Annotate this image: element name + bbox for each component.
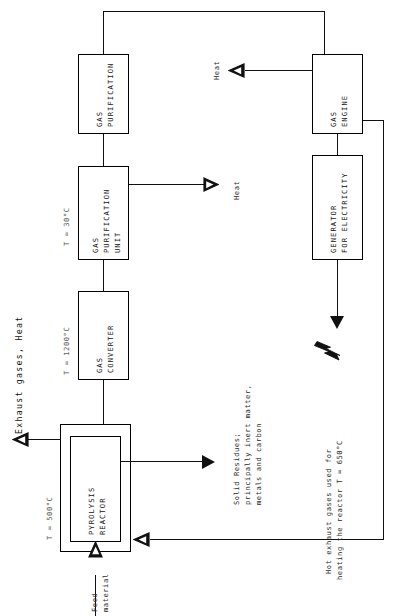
node-gas-converter-label-1: GAS <box>95 357 105 373</box>
node-generator-for-electricity[interactable]: GENERATOR FOR ELECTRICITY <box>312 155 363 260</box>
label-hot-exhaust-1: Hot exhaust gases used for <box>324 449 333 574</box>
connector-reactor-to-converter <box>103 380 104 424</box>
connector-hot-exhaust-to-reactor <box>150 539 384 540</box>
label-solid-residues-2: principally inert matter, <box>243 384 252 505</box>
temperature-label-gas-purification-unit: T = 30°C <box>62 207 71 246</box>
node-gas-purification-unit-label-2: PURIFICATION <box>102 189 112 253</box>
label-solid-residues-1: Solid Residues; <box>232 433 241 505</box>
node-gas-engine-label-1: GAS <box>329 111 339 127</box>
node-gas-purification-label-1: GAS <box>95 111 105 127</box>
arrowhead-heat-purification <box>203 177 219 192</box>
node-generator-label-2: FOR ELECTRICITY <box>340 172 350 253</box>
node-pyrolysis-reactor[interactable]: PYROLYSIS REACTOR <box>70 436 121 542</box>
label-heat-purification: Heat <box>232 181 241 200</box>
label-feed-material-2: material <box>101 573 110 612</box>
connector-purification-riser <box>103 11 104 54</box>
node-gas-purification-unit-label-3: UNIT <box>113 232 123 253</box>
node-pyrolysis-reactor-label-1: PYROLYSIS <box>87 487 97 535</box>
temperature-label-gas-converter: T = 1200°C <box>62 327 71 375</box>
node-gas-converter-label-2: CONVERTER <box>106 325 116 373</box>
label-exhaust-gases-heat: Exhaust gases, Heat <box>15 316 24 434</box>
lightning-bolt-icon <box>312 340 342 366</box>
node-gas-purification-label-2: PURIFICATION <box>106 63 116 127</box>
connector-purification-heat-out <box>129 184 205 185</box>
connector-hot-exhaust-vertical <box>383 120 384 540</box>
label-heat-engine: Heat <box>212 61 221 80</box>
connector-solid-residues <box>121 461 205 462</box>
node-gas-engine-label-2: ENGINE <box>340 95 350 127</box>
temperature-label-pyrolysis-reactor: T = 500°C <box>45 497 54 540</box>
node-gas-purification-unit[interactable]: GAS PURIFICATION UNIT <box>78 166 129 260</box>
node-gas-engine[interactable]: GAS ENGINE <box>312 54 363 134</box>
arrowhead-hot-exhaust-into-reactor <box>133 532 150 547</box>
node-pyrolysis-reactor-label-2: REACTOR <box>98 497 108 535</box>
arrowhead-solid-residues <box>202 455 215 469</box>
connector-purification-to-engine-top <box>103 11 325 12</box>
node-generator-label-1: GENERATOR <box>329 205 339 253</box>
connector-engine-to-generator <box>337 134 338 155</box>
node-gas-converter[interactable]: GAS CONVERTER <box>78 291 129 380</box>
label-feed-material-1: Feed <box>90 593 99 612</box>
arrowhead-feed-material <box>88 541 103 558</box>
label-solid-residues-3: metals and carbon <box>254 423 263 505</box>
connector-converter-to-unit <box>103 260 104 291</box>
process-flow-diagram: GAS PURIFICATION GAS PURIFICATION UNIT T… <box>0 0 404 616</box>
arrowhead-heat-engine <box>228 63 245 78</box>
arrowhead-exhaust-gases <box>12 432 29 447</box>
connector-electricity-out <box>337 260 338 318</box>
connector-engine-heat-out <box>245 70 313 71</box>
arrowhead-electricity <box>330 316 344 329</box>
label-hot-exhaust-2: heating the reactor T = 650°C <box>335 440 344 580</box>
node-gas-purification[interactable]: GAS PURIFICATION <box>78 54 129 134</box>
connector-engine-riser <box>324 11 325 54</box>
connector-unit-to-purification <box>103 134 104 166</box>
node-gas-purification-unit-label-1: GAS <box>91 237 101 253</box>
connector-exhaust-gases-out <box>27 439 61 440</box>
